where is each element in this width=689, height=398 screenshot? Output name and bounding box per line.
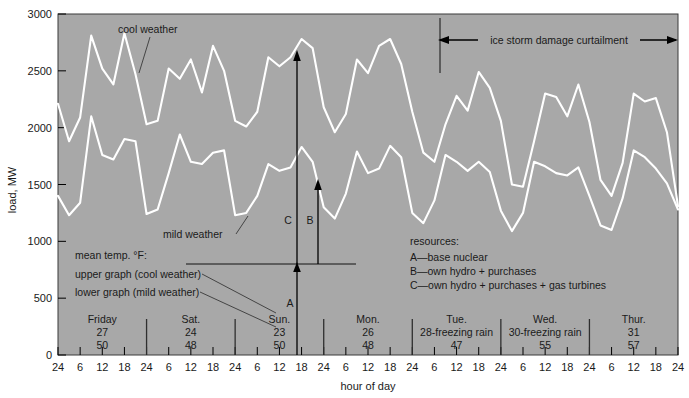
x-axis-title: hour of day	[340, 380, 396, 392]
x-tick-label: 12	[628, 361, 640, 373]
x-tick-label: 24	[583, 361, 595, 373]
day-mild-temp: 50	[96, 339, 108, 351]
day-name: Sat.	[182, 313, 201, 325]
y-axis-labels: 050010001500200025003000	[28, 8, 52, 361]
day-mild-temp: 48	[185, 339, 197, 351]
day-mild-temp: 48	[362, 339, 374, 351]
x-tick-label: 24	[672, 361, 684, 373]
day-name: Mon.	[356, 313, 379, 325]
x-tick-label: 24	[52, 361, 64, 373]
x-tick-label: 24	[140, 361, 152, 373]
day-cool-temp: 26	[362, 326, 374, 338]
x-tick-label: 18	[207, 361, 219, 373]
resources-title: resources:	[410, 235, 459, 247]
day-cool-temp: 28-freezing rain	[420, 326, 493, 338]
chart-figure: 050010001500200025003000 246121824612182…	[0, 0, 689, 398]
x-tick-label: 24	[406, 361, 418, 373]
x-axis-labels: 2461218246121824612182461218246121824612…	[52, 361, 684, 373]
y-tick-label: 500	[34, 292, 52, 304]
arrow-b-label: B	[306, 214, 313, 226]
day-name: Thur.	[622, 313, 646, 325]
x-tick-label: 24	[318, 361, 330, 373]
x-tick-label: 6	[254, 361, 260, 373]
day-name: Wed.	[533, 313, 557, 325]
x-tick-label: 12	[362, 361, 374, 373]
y-tick-label: 2000	[28, 122, 52, 134]
x-tick-label: 12	[96, 361, 108, 373]
x-tick-label: 6	[166, 361, 172, 373]
load-curve-chart: 050010001500200025003000 246121824612182…	[0, 0, 689, 398]
x-tick-label: 12	[450, 361, 462, 373]
x-tick-label: 18	[384, 361, 396, 373]
day-cool-temp: 23	[274, 326, 286, 338]
mean-temp-legend-line3: lower graph (mild weather)	[75, 286, 199, 298]
resources-item-a: A—base nuclear	[410, 251, 488, 263]
x-tick-label: 24	[229, 361, 241, 373]
x-tick-label: 18	[473, 361, 485, 373]
day-cool-temp: 24	[185, 326, 197, 338]
arrow-a-label: A	[286, 297, 293, 309]
day-mild-temp: 57	[628, 339, 640, 351]
y-axis-title: load, MW	[6, 166, 18, 213]
day-mild-temp: 55	[539, 339, 551, 351]
x-tick-label: 6	[609, 361, 615, 373]
day-name: Tue.	[446, 313, 467, 325]
x-tick-label: 6	[520, 361, 526, 373]
y-tick-label: 0	[46, 349, 52, 361]
mean-temp-legend-line2: upper graph (cool weather)	[75, 268, 201, 280]
resources-item-c: C—own hydro + purchases + gas turbines	[410, 279, 606, 291]
x-tick-label: 18	[118, 361, 130, 373]
day-name: Sun.	[269, 313, 291, 325]
day-mild-temp: 47	[451, 339, 463, 351]
x-tick-label: 24	[495, 361, 507, 373]
x-tick-label: 18	[561, 361, 573, 373]
resources-item-b: B—own hydro + purchases	[410, 265, 536, 277]
x-tick-label: 12	[185, 361, 197, 373]
x-tick-label: 6	[343, 361, 349, 373]
x-tick-label: 6	[77, 361, 83, 373]
x-tick-label: 12	[539, 361, 551, 373]
day-name: Friday	[88, 313, 118, 325]
mean-temp-legend-line1: mean temp. °F:	[75, 249, 147, 261]
x-tick-label: 18	[650, 361, 662, 373]
day-cool-temp: 30-freezing rain	[509, 326, 582, 338]
y-tick-label: 2500	[28, 65, 52, 77]
x-tick-label: 12	[273, 361, 285, 373]
x-tick-label: 18	[295, 361, 307, 373]
day-cool-temp: 27	[96, 326, 108, 338]
arrow-c-label: C	[284, 214, 292, 226]
day-cool-temp: 31	[628, 326, 640, 338]
ice-storm-label: ice storm damage curtailment	[490, 34, 628, 46]
day-mild-temp: 50	[274, 339, 286, 351]
y-tick-label: 1000	[28, 235, 52, 247]
cool-weather-label: cool weather	[118, 23, 178, 35]
y-tick-label: 1500	[28, 179, 52, 191]
mild-weather-label: mild weather	[163, 228, 223, 240]
x-tick-label: 6	[431, 361, 437, 373]
y-tick-label: 3000	[28, 8, 52, 20]
